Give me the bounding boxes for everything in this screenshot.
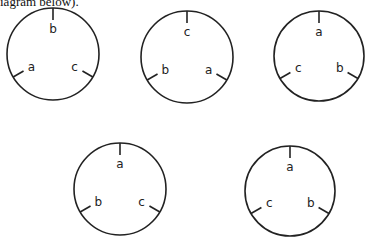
tick-mark-left (13, 71, 23, 77)
label-right: b (336, 61, 344, 75)
label-right: c (71, 60, 78, 74)
tick-mark-left (80, 206, 90, 212)
label-right: a (205, 63, 212, 77)
circle-diagram-2: cba (141, 11, 233, 103)
tick-mark-right (216, 74, 226, 80)
circle-diagram-4: abc (74, 143, 166, 235)
label-top: a (286, 160, 293, 174)
circle-diagram-3: acb (274, 11, 364, 101)
label-left: c (266, 196, 273, 210)
tick-mark-right (319, 208, 329, 214)
label-top: a (116, 157, 123, 171)
label-right: c (138, 195, 145, 209)
label-top: a (315, 25, 322, 39)
tick-mark-left (280, 73, 290, 79)
tick-mark-left (251, 208, 261, 214)
label-top: c (184, 25, 191, 39)
label-left: c (295, 61, 302, 75)
circle-diagram-1: bac (7, 8, 99, 100)
label-right: b (307, 196, 315, 210)
tick-mark-right (82, 71, 92, 77)
tick-mark-left (147, 74, 157, 80)
tick-mark-right (149, 206, 159, 212)
circle-diagrams: baccbaacbabcacb (0, 0, 367, 239)
label-left: b (162, 63, 170, 77)
tick-mark-right (348, 73, 358, 79)
label-top: b (49, 22, 57, 36)
label-left: b (95, 195, 103, 209)
label-left: a (28, 60, 35, 74)
circle-diagram-5: acb (245, 146, 335, 236)
